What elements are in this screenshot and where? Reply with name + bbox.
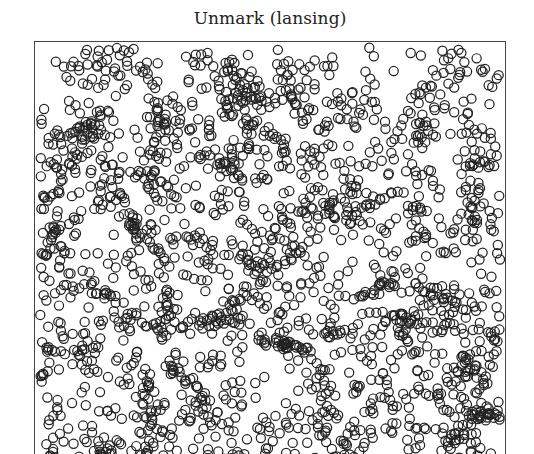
plot-area	[34, 41, 506, 454]
point-pattern	[35, 42, 505, 454]
chart-title: Unmark (lansing)	[0, 8, 534, 28]
